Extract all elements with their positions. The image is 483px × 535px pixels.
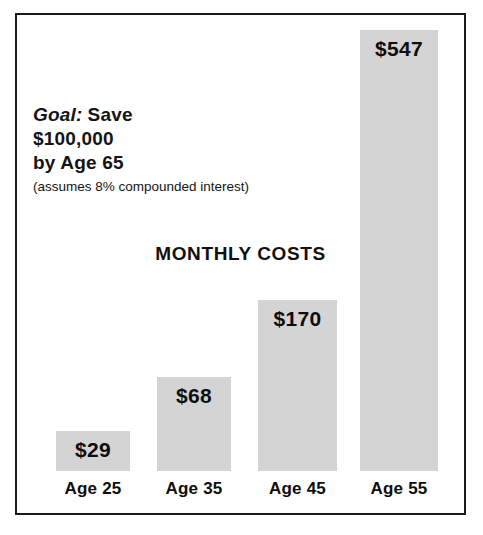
bar-value-label: $29: [56, 438, 130, 462]
bar-rect: $170: [258, 300, 337, 471]
bar-rect: $547: [360, 30, 438, 471]
bar-group: $547Age 55: [360, 15, 438, 513]
bar-group: $68Age 35: [157, 15, 231, 513]
bar-group: $29Age 25: [56, 15, 130, 513]
bar-category-label: Age 45: [246, 479, 349, 499]
bar-category-label: Age 55: [348, 479, 450, 499]
bar-rect: $29: [56, 431, 130, 471]
monthly-costs-bar-chart: Goal:Save $100,000 by Age 65 (assumes 8%…: [0, 0, 483, 535]
bar-value-label: $170: [258, 307, 337, 331]
bar-rect: $68: [157, 377, 231, 471]
bar-category-label: Age 25: [44, 479, 142, 499]
bars-layer: $29Age 25$68Age 35$170Age 45$547Age 55: [17, 15, 464, 513]
bar-group: $170Age 45: [258, 15, 337, 513]
bar-category-label: Age 35: [145, 479, 243, 499]
bar-value-label: $547: [360, 37, 438, 61]
plot-area: Goal:Save $100,000 by Age 65 (assumes 8%…: [17, 15, 464, 513]
bar-value-label: $68: [157, 384, 231, 408]
